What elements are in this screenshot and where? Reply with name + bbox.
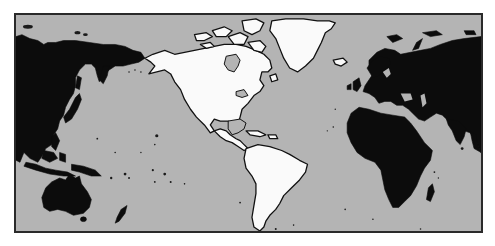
pacific-islands	[96, 134, 241, 203]
region-north-america	[128, 19, 278, 133]
world-map	[14, 13, 483, 233]
region-greenland	[270, 19, 347, 72]
region-africa	[347, 107, 439, 207]
region-south-america	[244, 145, 307, 231]
region-australia	[42, 174, 127, 223]
map-canvas	[16, 15, 481, 231]
region-asia-west-edge	[16, 25, 145, 176]
